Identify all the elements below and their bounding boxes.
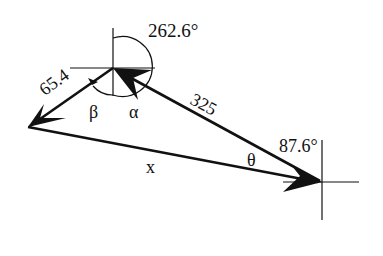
angle-top-label: 262.6°	[148, 21, 198, 40]
theta-label: θ	[247, 151, 256, 169]
resultant-x-label: x	[146, 158, 155, 176]
vector-diagram: 262.6° 65.4 325 87.6° β α θ x	[0, 0, 383, 256]
arrowhead-right-icon	[283, 166, 322, 192]
vector-x	[28, 127, 318, 182]
angle-right-label: 87.6°	[279, 137, 318, 155]
angle-arc-bottom	[93, 86, 113, 95]
beta-label: β	[89, 103, 98, 121]
alpha-label: α	[129, 103, 138, 121]
